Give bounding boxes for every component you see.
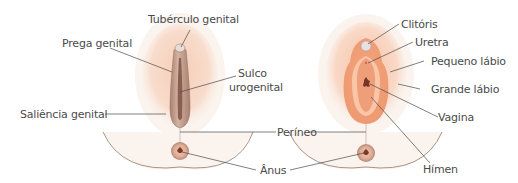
label-clitoris: Clitóris (401, 18, 438, 31)
label-anus: Ânus (260, 164, 286, 177)
label-sulco: Sulco (238, 67, 267, 80)
label-pequeno-labio: Pequeno lábio (431, 55, 506, 68)
label-himen: Hímen (423, 163, 458, 176)
diagram-canvas: Tubérculo genital Prega genital Sulco ur… (0, 0, 518, 183)
label-vagina: Vagina (438, 111, 474, 124)
label-perineo: Períneo (277, 126, 317, 139)
label-urogenital: urogenital (229, 81, 283, 94)
label-prega-genital: Prega genital (62, 37, 132, 50)
label-tuberculo-genital: Tubérculo genital (148, 13, 239, 26)
label-saliencia-genital: Saliência genital (20, 108, 107, 121)
label-grande-labio: Grande lábio (431, 83, 499, 96)
label-uretra: Uretra (415, 36, 448, 49)
